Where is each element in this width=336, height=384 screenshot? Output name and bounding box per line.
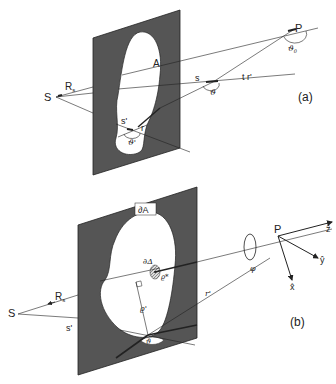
label-source-b: S bbox=[8, 307, 15, 319]
label-sprime-a: s' bbox=[121, 116, 128, 126]
label-rhoprime-b: ϱ' bbox=[140, 304, 147, 313]
label-rhostar-b: ϱ* bbox=[161, 273, 169, 281]
label-axis-y: ŷ bbox=[320, 255, 325, 265]
label-theta-a: ϑ bbox=[210, 88, 216, 97]
label-thetaprime-a: ϑ' bbox=[128, 138, 136, 147]
panel-label-a: (a) bbox=[298, 90, 313, 104]
figure-b: ∂A S Rs s' ∂Δ ϱ* ϱ' ϑ r' φ P ẑ ŷ x̂ bbox=[8, 187, 332, 375]
label-theta-b: ϑ bbox=[146, 338, 151, 346]
label-rs-a: Rs bbox=[65, 81, 75, 93]
label-point-b: P bbox=[274, 223, 281, 235]
label-rs-b: Rs bbox=[55, 291, 65, 303]
label-r-a: r bbox=[141, 123, 144, 133]
label-theta0-a: ϑ0 bbox=[288, 44, 298, 54]
label-aperture-a: A bbox=[153, 58, 160, 69]
label-tr-a: t r' bbox=[242, 72, 252, 82]
label-source-a: S bbox=[44, 91, 51, 103]
diffraction-diagram: S Rs A s t r' ϑ P ϑ0 s' r ϑ' (a) ∂A bbox=[0, 0, 336, 384]
label-axis-z: ẑ bbox=[326, 224, 331, 234]
panel-label-b: (b) bbox=[290, 315, 305, 329]
label-rprime-b: r' bbox=[205, 289, 211, 298]
label-point-a: P bbox=[295, 22, 302, 34]
label-phi-b: φ bbox=[250, 264, 256, 273]
label-s-a: s bbox=[195, 73, 200, 83]
label-boundary-b: ∂A bbox=[138, 205, 148, 215]
label-delta-b: ∂Δ bbox=[143, 257, 153, 266]
label-sprime-b: s' bbox=[66, 323, 73, 333]
label-axis-x: x̂ bbox=[290, 282, 295, 292]
figure-a: S Rs A s t r' ϑ P ϑ0 s' r ϑ' (a) bbox=[44, 10, 318, 175]
